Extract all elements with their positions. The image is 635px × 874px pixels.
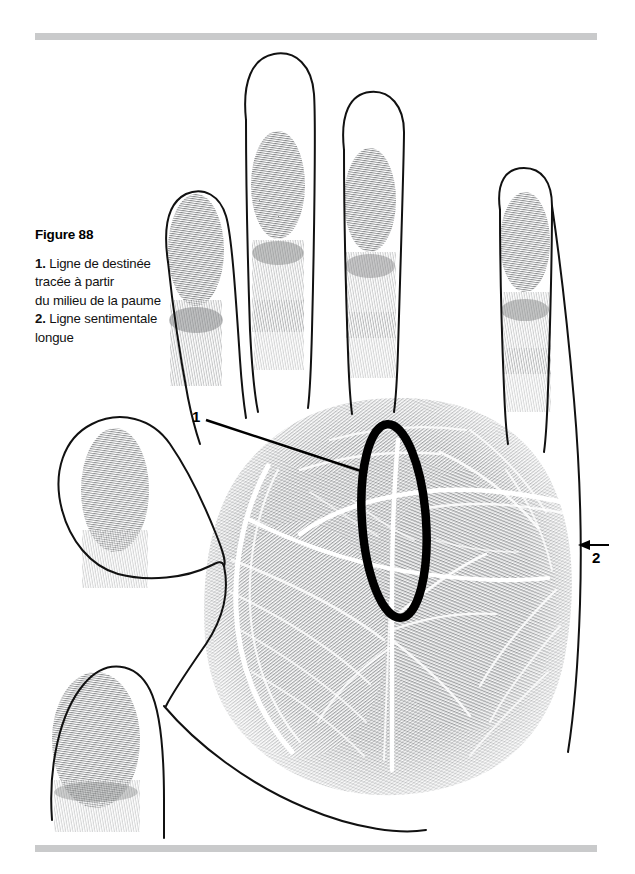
- caption-marker-1: 1.: [35, 256, 46, 271]
- caption-text-1: Ligne de destinée: [49, 256, 151, 271]
- caption-line-4: 2. Ligne sentimentale: [35, 310, 210, 329]
- caption-text-2: tracée à partir: [35, 274, 114, 289]
- figure-page: 1 2 Figure 88 1. Ligne de destinée tracé…: [0, 0, 635, 874]
- figure-caption: Figure 88 1. Ligne de destinée tracée à …: [35, 228, 210, 347]
- callout-number-1: 1: [192, 409, 200, 424]
- caption-text-3: du milieu de la paume: [35, 293, 161, 308]
- palm-print-illustration: [0, 0, 635, 874]
- palm-print-texture: [190, 380, 600, 820]
- caption-marker-2: 2.: [35, 311, 46, 326]
- caption-text-4: Ligne sentimentale: [49, 311, 157, 326]
- caption-line-1: 1. Ligne de destinée: [35, 255, 210, 274]
- figure-title: Figure 88: [35, 228, 210, 243]
- caption-line-5: longue: [35, 329, 210, 348]
- callout-number-2: 2: [592, 550, 600, 565]
- caption-line-2: tracée à partir: [35, 273, 210, 292]
- caption-line-3: du milieu de la paume: [35, 292, 210, 311]
- caption-text-5: longue: [35, 330, 74, 345]
